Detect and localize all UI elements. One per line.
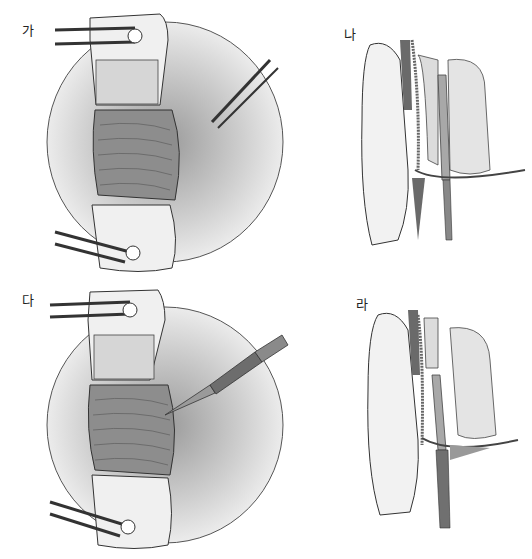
panel-na: 나 (300, 0, 532, 280)
retractor-exposure-illustration (0, 0, 300, 280)
panel-da: 다 (0, 280, 300, 559)
sagittal-section-incision-illustration (300, 280, 532, 559)
panel-ra: 라 (300, 280, 532, 559)
retractor-exposure-knife-illustration (0, 280, 300, 559)
panel-ga: 가 (0, 0, 300, 280)
sagittal-section-illustration (300, 0, 532, 280)
